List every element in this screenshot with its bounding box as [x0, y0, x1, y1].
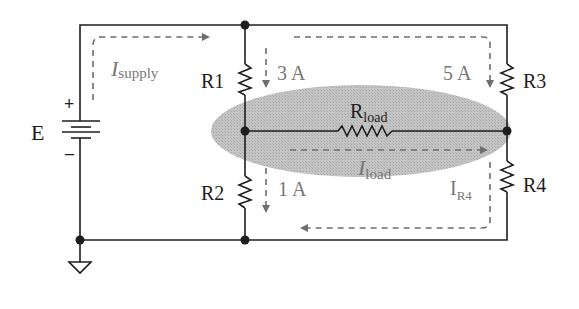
resistor-r2-icon [239, 176, 251, 208]
r4-label: R4 [523, 174, 546, 196]
r1-current-label: 3 A [277, 62, 306, 84]
resistor-r1-icon [239, 64, 251, 95]
supply-current-label: Isupply [110, 56, 159, 81]
battery-minus-label: – [64, 143, 75, 163]
node-top-middle [241, 21, 250, 30]
node-bottom-left [76, 236, 85, 245]
battery-plus-label: + [64, 94, 74, 114]
r3-label: R3 [523, 70, 546, 92]
circuit-diagram: + – E R1 R2 R3 R4 Rload Isupply 3 A 1 A … [0, 0, 579, 309]
r3-current-label: 5 A [443, 62, 472, 84]
resistor-r3-icon [501, 64, 513, 95]
ground-icon [69, 262, 91, 273]
node-left-load [241, 127, 250, 136]
resistor-r4-icon [501, 161, 513, 192]
node-right-load [503, 127, 512, 136]
r4-current-label: IR4 [450, 177, 472, 203]
r2-current-label: 1 A [278, 178, 307, 200]
r2-label: R2 [201, 182, 224, 204]
node-bottom-middle [241, 236, 250, 245]
r1-label: R1 [201, 70, 224, 92]
source-label: E [31, 120, 44, 145]
